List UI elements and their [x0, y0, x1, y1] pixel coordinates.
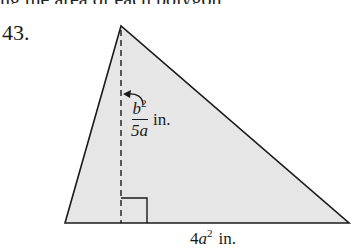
height-label: b2 5a in. [131, 100, 170, 139]
height-fraction: b2 5a [131, 100, 148, 139]
height-numerator: b2 [132, 100, 148, 120]
base-unit: in. [219, 229, 236, 248]
height-unit: in. [153, 110, 170, 130]
triangle-figure [0, 0, 356, 250]
numerator-base: b [133, 99, 142, 118]
base-label: 4a2in. [190, 229, 236, 249]
height-denominator: 5a [131, 120, 148, 139]
base-exponent: 2 [207, 227, 213, 239]
base-coefficient: 4 [190, 229, 199, 248]
triangle-shape [65, 26, 349, 223]
base-variable: a [199, 229, 208, 248]
numerator-exponent: 2 [141, 97, 147, 109]
